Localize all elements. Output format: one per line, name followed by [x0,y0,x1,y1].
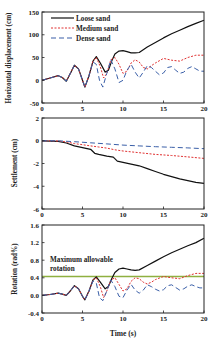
plot-frame [42,118,204,209]
y-tick-label: 50 [32,54,40,62]
x-tick-label: 5 [81,315,85,323]
y-tick-label: 0.8 [30,257,39,265]
ylabel-horizontal-displacement: Horizontal displacement (cm) [5,12,13,104]
series-loose-sand [42,20,204,87]
y-tick-label: 0.4 [30,274,39,282]
xlabel-time: Time (s) [110,329,137,338]
series-dense-sand [42,141,204,149]
y-tick-label: -4 [33,183,39,191]
x-tick-label: 0 [40,105,44,113]
y-tick-label: -50 [30,100,40,108]
annotation-max-rotation: Maximum allowable rotation [50,256,113,273]
x-tick-label: 20 [201,315,209,323]
series-medium-sand [42,55,204,87]
ylabel-rotation: Rotation (rad%) [11,243,19,295]
x-tick-label: 10 [120,315,128,323]
y-tick-label: 0 [36,137,40,145]
plot-frame [42,12,204,103]
ylabel-settlement: Settlement (cm) [11,138,19,187]
x-tick-label: 10 [120,105,128,113]
y-tick-label: 2 [36,115,40,123]
y-tick-label: -6 [33,206,39,214]
x-tick-label: 20 [201,105,209,113]
y-tick-label: 0.0 [30,292,39,300]
y-tick-label: 1.2 [30,239,39,247]
y-tick-label: 0 [36,77,40,85]
x-tick-label: 20 [201,211,209,219]
x-tick-label: 15 [160,315,168,323]
annotation-line-2: rotation [50,265,75,273]
x-tick-label: 5 [81,211,85,219]
legend-label-loose: Loose sand [76,15,110,23]
legend-label-dense: Dense sand [76,35,111,43]
y-tick-label: -0.4 [28,310,40,318]
y-tick-label: 1.6 [30,222,39,230]
panel-horizontal-displacement: 05101520-50050100150 [29,9,209,114]
x-tick-label: 5 [81,105,85,113]
x-tick-label: 15 [160,211,168,219]
panel-settlement: 05101520-6-4-202 [33,115,208,220]
legend-label-medium: Medium sand [76,25,118,33]
figure: 05101520-50050100150 05101520-6-4-202 05… [0,0,219,346]
legend: Loose sand Medium sand Dense sand [51,15,118,43]
x-tick-label: 0 [40,315,44,323]
x-tick-label: 15 [160,105,168,113]
x-tick-label: 10 [120,211,128,219]
y-tick-label: 150 [29,9,40,17]
y-tick-label: 100 [29,31,40,39]
annotation-line-1: Maximum allowable [50,256,113,264]
x-tick-label: 0 [40,211,44,219]
y-tick-label: -2 [33,160,39,168]
